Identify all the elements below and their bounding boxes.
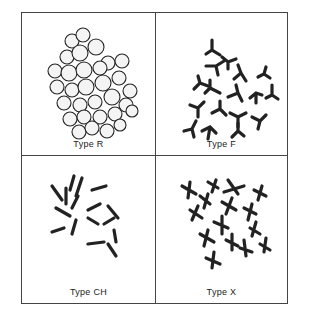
three-armed-cells-illustration: [156, 13, 289, 156]
panel-label: Type X: [156, 287, 287, 297]
bone-cells-illustration: [22, 156, 156, 305]
panel-label: Type F: [156, 139, 287, 149]
cross-cells-illustration: [156, 156, 289, 305]
panel-type-r: Type R: [22, 13, 156, 156]
panel-type-ch: Type CH: [22, 156, 156, 303]
rounded-cells-illustration: [22, 13, 156, 156]
panel-label: Type CH: [22, 287, 155, 297]
panel-type-f: Type F: [156, 13, 287, 156]
panel-type-x: Type X: [156, 156, 287, 303]
panel-label: Type R: [22, 139, 155, 149]
figure-grid: Type R Type F: [21, 12, 288, 304]
